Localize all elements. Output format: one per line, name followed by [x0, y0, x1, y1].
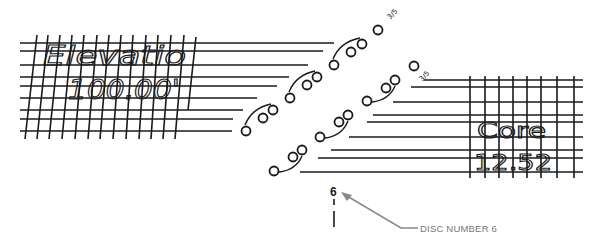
core-value: 12.52: [474, 150, 552, 175]
disc: [391, 76, 400, 85]
disc: [313, 73, 322, 82]
elevation-label: Elevatio: [43, 40, 186, 71]
disc: [303, 81, 312, 90]
upper-disc-track: 3/5: [242, 7, 400, 135]
callout-label: DISC NUMBER 6: [420, 223, 497, 234]
core-label: Core: [477, 118, 546, 143]
disc: [289, 153, 298, 162]
elevation-core-diagram: Elevatio 100.00' Core 12.52: [0, 0, 600, 243]
elevation-value: 100.00': [68, 74, 180, 105]
disc: [270, 167, 279, 176]
fraction-label: 3/5: [418, 69, 432, 83]
disc: [316, 133, 325, 142]
disc: [298, 146, 307, 155]
arrow-head-icon: [341, 192, 352, 201]
disc: [347, 48, 356, 57]
disc: [382, 84, 391, 93]
disc: [242, 127, 251, 136]
disc: [259, 114, 268, 123]
disc: [286, 94, 295, 103]
disc: [269, 106, 278, 115]
disc: [363, 97, 372, 106]
disc: [330, 61, 339, 70]
disc: [374, 26, 383, 35]
disc-callout: DISC NUMBER 6: [341, 192, 497, 234]
disc-number: 6: [330, 185, 337, 199]
disc-number-marker: 6: [330, 185, 337, 227]
disc: [335, 118, 344, 127]
disc: [410, 62, 419, 71]
disc: [344, 111, 353, 120]
fraction-label: 3/5: [386, 7, 400, 21]
disc: [358, 40, 367, 49]
